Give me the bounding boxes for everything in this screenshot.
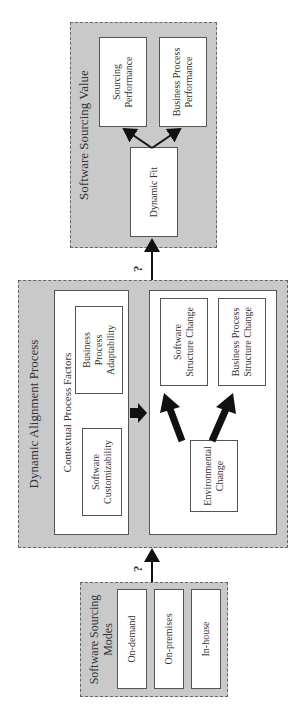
group-title-alignment: Dynamic Alignment Process: [27, 281, 41, 547]
connector-label-alignment-to-fit: ?: [130, 266, 146, 273]
box-on-premises: On-premises: [154, 589, 184, 689]
panel-title-contextual: Contextual Process Factors: [61, 291, 73, 534]
group-software-sourcing-modes: Software Sourcing Modes On-demand On-pre…: [80, 582, 228, 697]
panel-change: Environmental Change Software Structure …: [149, 290, 277, 535]
group-title-sourcing-modes: Software Sourcing Modes: [87, 583, 115, 696]
box-sourcing-performance: Sourcing Performance: [99, 37, 147, 127]
connector-label-modes-to-alignment: ?: [130, 566, 146, 573]
group-title-sourcing-value: Software Sourcing Value: [77, 23, 91, 247]
box-dynamic-fit: Dynamic Fit: [130, 147, 178, 237]
box-business-process-structure-change: Business Process Structure Change: [218, 298, 266, 386]
box-environmental-change: Environmental Change: [190, 440, 238, 512]
group-dynamic-alignment-process: Dynamic Alignment Process Contextual Pro…: [18, 280, 288, 548]
box-business-process-adaptability: Business Process Adaptability: [75, 306, 123, 394]
box-in-house: In-house: [191, 589, 221, 689]
panel-contextual-process-factors: Contextual Process Factors Software Cust…: [54, 290, 129, 535]
box-software-structure-change: Software Structure Change: [160, 298, 208, 386]
diagram-canvas: Software Sourcing Modes On-demand On-pre…: [0, 0, 303, 709]
box-business-process-performance: Business Process Performance: [159, 37, 207, 127]
box-on-demand: On-demand: [117, 589, 147, 689]
group-software-sourcing-value: Software Sourcing Value Dynamic Fit Sour…: [70, 22, 217, 248]
box-software-customizability: Software Customizability: [82, 428, 122, 516]
